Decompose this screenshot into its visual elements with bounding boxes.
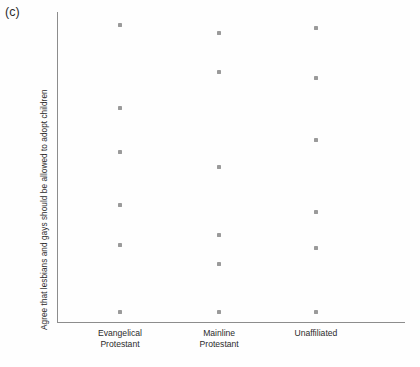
data-point (314, 210, 317, 213)
data-point (118, 23, 121, 26)
panel-label: (c) (5, 6, 20, 19)
data-point (314, 138, 317, 141)
data-point (314, 76, 317, 79)
data-point (118, 106, 121, 109)
data-point (217, 233, 220, 236)
data-point (217, 262, 220, 265)
data-point (217, 70, 220, 73)
data-point (118, 243, 121, 246)
x-tick-label-line: Protestant (159, 339, 279, 350)
y-axis-title: Agree that lesbians and gays should be a… (36, 12, 52, 330)
data-point (217, 31, 220, 34)
data-point (118, 310, 121, 313)
data-point (217, 310, 220, 313)
plot-area (57, 12, 405, 322)
data-point (314, 26, 317, 29)
x-axis-line (57, 322, 405, 323)
data-point (118, 203, 121, 206)
data-point (118, 150, 121, 153)
figure-panel-c: (c) Agree that lesbians and gays should … (0, 0, 420, 367)
x-tick-label: Unaffiliated (256, 328, 376, 339)
data-point (314, 246, 317, 249)
data-point (217, 165, 220, 168)
x-tick-label-line: Unaffiliated (256, 328, 376, 339)
data-point (314, 310, 317, 313)
x-axis-tick-labels: EvangelicalProtestantMainlineProtestantU… (57, 328, 405, 360)
